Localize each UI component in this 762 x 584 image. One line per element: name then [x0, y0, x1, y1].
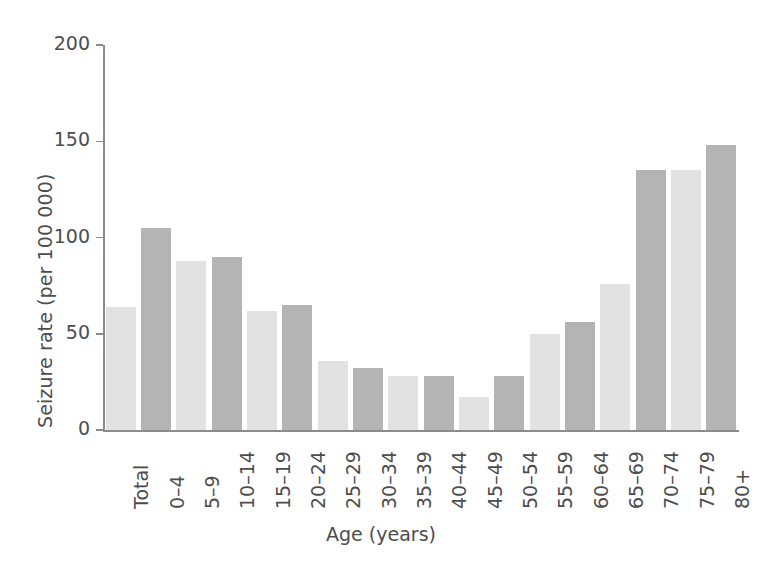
y-tick-label-wrap: 50: [28, 323, 90, 343]
y-tick-label: 200: [30, 34, 90, 53]
y-axis-title: Seizure rate (per 100 000): [34, 0, 68, 428]
x-tick-label: 25–29: [342, 389, 364, 509]
y-tick-label-wrap: 150: [28, 130, 90, 150]
bar-series: [103, 45, 739, 430]
y-tick-mark: [96, 141, 103, 143]
y-tick-mark: [96, 44, 103, 46]
y-tick-label-wrap: 200: [28, 34, 90, 54]
y-tick-label-wrap: 100: [28, 227, 90, 247]
x-tick-label: 35–39: [413, 389, 435, 509]
x-tick-label: 5–9: [201, 389, 223, 509]
x-tick-label: 60–64: [590, 389, 612, 509]
y-tick-label: 100: [30, 227, 90, 246]
x-tick-label: 50–54: [519, 389, 541, 509]
x-tick-label: 15–19: [272, 389, 294, 509]
x-tick-label: 65–69: [625, 389, 647, 509]
x-tick-label: 70–74: [660, 389, 682, 509]
bar-80+[interactable]: [706, 145, 736, 430]
x-tick-label: 45–49: [484, 389, 506, 509]
y-tick-label: 150: [30, 130, 90, 149]
y-tick-mark: [96, 333, 103, 335]
x-tick-label: 30–34: [378, 389, 400, 509]
x-tick-label: 55–59: [554, 389, 576, 509]
x-tick-label: 40–44: [448, 389, 470, 509]
y-tick-mark: [96, 237, 103, 239]
y-tick-label: 0: [30, 419, 90, 438]
x-axis-tick-labels: Total0–45–910–1415–1920–2425–2930–3435–3…: [103, 431, 739, 511]
seizure-rate-bar-chart: Seizure rate (per 100 000) 050100150200 …: [0, 0, 762, 584]
x-tick-label: 0–4: [166, 389, 188, 509]
x-tick-label: 10–14: [236, 389, 258, 509]
y-tick-label: 50: [30, 323, 90, 342]
x-tick-label: 20–24: [307, 389, 329, 509]
x-tick-label: 80+: [731, 389, 753, 509]
x-axis-title: Age (years): [0, 523, 762, 545]
y-tick-label-wrap: 0: [28, 419, 90, 439]
y-tick-mark: [96, 429, 103, 431]
x-tick-label: Total: [130, 389, 152, 509]
x-tick-label: 75–79: [696, 389, 718, 509]
